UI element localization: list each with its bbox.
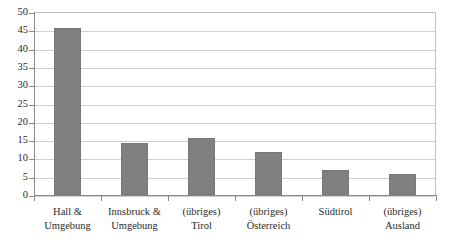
x-axis-category-label: Innsbruck &Umgebung <box>101 205 168 233</box>
bar-chart: 50454035302520151050 Hall &UmgebungInnsb… <box>0 0 461 250</box>
category-label-line: (übriges) <box>168 205 235 219</box>
category-label-line: Südtirol <box>302 205 369 219</box>
x-axis-tick-mark <box>302 196 303 201</box>
x-axis-category-label: (übriges)Österreich <box>235 205 302 233</box>
category-label-line: Ausland <box>369 219 436 233</box>
category-label-line: Innsbruck & <box>101 205 168 219</box>
x-axis-tick-mark <box>34 196 35 201</box>
y-axis-tick-label: 35 <box>18 62 29 73</box>
category-label-line: (übriges) <box>369 205 436 219</box>
x-axis-category-labels: Hall &UmgebungInnsbruck &Umgebung(übrige… <box>34 205 436 250</box>
y-axis-tick-label: 20 <box>18 117 29 128</box>
y-axis-tick-label: 25 <box>18 98 29 109</box>
bars-layer <box>34 12 436 195</box>
y-axis-tick-label: 15 <box>18 135 29 146</box>
y-axis-tick-label: 30 <box>18 80 29 91</box>
y-axis-tick-label: 10 <box>18 153 29 164</box>
bar <box>255 152 282 195</box>
x-axis-tick-mark <box>168 196 169 201</box>
category-label-line: Umgebung <box>101 219 168 233</box>
y-axis-tick-label: 45 <box>18 25 29 36</box>
x-axis-category-label: Südtirol <box>302 205 369 219</box>
category-label-line: Tirol <box>168 219 235 233</box>
bar <box>389 174 416 195</box>
x-axis-category-label: (übriges)Tirol <box>168 205 235 233</box>
category-label-line: Umgebung <box>34 219 101 233</box>
x-axis-category-label: Hall &Umgebung <box>34 205 101 233</box>
x-axis-tick-mark <box>101 196 102 201</box>
bar <box>322 170 349 195</box>
y-axis-tick-label: 0 <box>23 190 28 201</box>
bar <box>121 143 148 195</box>
y-axis-tick-labels: 50454035302520151050 <box>0 0 34 250</box>
y-axis-tick-label: 5 <box>23 171 28 182</box>
bar <box>54 28 81 195</box>
category-label-line: (übriges) <box>235 205 302 219</box>
x-axis-tick-mark <box>436 196 437 201</box>
y-axis-tick-label: 50 <box>18 7 29 18</box>
category-label-line: Hall & <box>34 205 101 219</box>
y-axis-tick-label: 40 <box>18 43 29 54</box>
bar <box>188 138 215 195</box>
category-label-line: Österreich <box>235 219 302 233</box>
x-axis-category-label: (übriges)Ausland <box>369 205 436 233</box>
x-axis-tick-mark <box>235 196 236 201</box>
x-axis-tick-mark <box>369 196 370 201</box>
